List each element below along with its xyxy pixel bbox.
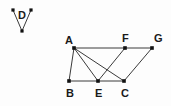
vertex-label-E: E bbox=[95, 87, 102, 99]
polygon-edges bbox=[69, 48, 152, 81]
vertex-point-F bbox=[123, 46, 127, 50]
edge-A-C bbox=[74, 48, 124, 81]
vertex-point-A bbox=[72, 46, 76, 50]
vertex-label-A: A bbox=[65, 34, 73, 46]
edge-G-C bbox=[124, 48, 152, 81]
d-arm-right-end bbox=[29, 8, 32, 11]
polygon-vertex-labels: AFGBEC bbox=[65, 32, 163, 99]
edge-F-E bbox=[98, 48, 125, 81]
vertex-label-D: D bbox=[18, 9, 26, 21]
angle-d-labels: D bbox=[18, 9, 26, 21]
vertex-point-B bbox=[67, 79, 71, 83]
vertex-point-E bbox=[96, 79, 100, 83]
vertex-point-C bbox=[122, 79, 126, 83]
edge-A-E bbox=[74, 48, 98, 81]
vertex-point-G bbox=[150, 46, 154, 50]
vertex-label-C: C bbox=[121, 87, 129, 99]
vertex-label-F: F bbox=[122, 32, 129, 44]
d-apex bbox=[20, 29, 23, 32]
geometry-diagram: D AFGBEC bbox=[0, 0, 171, 106]
vertex-label-G: G bbox=[154, 32, 163, 44]
d-arm-left-end bbox=[11, 8, 14, 11]
figure-root: D AFGBEC bbox=[0, 0, 171, 106]
edge-A-B bbox=[69, 48, 74, 81]
vertex-label-B: B bbox=[66, 87, 74, 99]
